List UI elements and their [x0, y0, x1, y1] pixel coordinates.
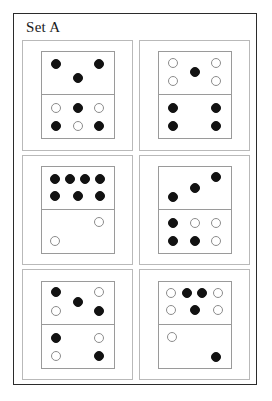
domino-6-bottom-half [159, 325, 231, 368]
open-pip-icon [211, 76, 221, 86]
open-pip-icon [94, 333, 104, 343]
filled-pip-icon [80, 174, 90, 184]
domino-worksheet-page: Set A [0, 0, 272, 401]
domino-card[interactable] [22, 155, 133, 266]
domino-1-bottom-half [42, 95, 114, 138]
open-pip-icon [211, 236, 221, 246]
filled-pip-icon [73, 103, 83, 113]
open-pip-icon [94, 103, 104, 113]
domino-card[interactable] [139, 40, 250, 151]
domino-2-bottom-half [159, 95, 231, 138]
open-pip-icon [51, 351, 61, 361]
filled-pip-icon [51, 59, 61, 69]
filled-pip-icon [211, 103, 221, 113]
open-pip-icon [167, 332, 177, 342]
open-pip-icon [166, 288, 176, 298]
open-pip-icon [94, 217, 104, 227]
filled-pip-icon [94, 351, 104, 361]
domino-4-top-half [159, 167, 231, 210]
filled-pip-icon [168, 218, 178, 228]
open-pip-icon [211, 58, 221, 68]
filled-pip-icon [50, 191, 60, 201]
open-pip-icon [50, 236, 60, 246]
filled-pip-icon [190, 67, 200, 77]
filled-pip-icon [190, 236, 200, 246]
domino-4-bottom-half [159, 210, 231, 253]
open-pip-icon [190, 218, 200, 228]
open-pip-icon [168, 76, 178, 86]
filled-pip-icon [197, 288, 207, 298]
open-pip-icon [94, 287, 104, 297]
domino-card[interactable] [22, 269, 133, 380]
filled-pip-icon [168, 192, 178, 202]
domino-grid [22, 40, 250, 380]
filled-pip-icon [73, 191, 83, 201]
domino-3-top-half [42, 167, 114, 210]
filled-pip-icon [95, 191, 105, 201]
filled-pip-icon [211, 352, 221, 362]
domino-4[interactable] [158, 166, 232, 254]
filled-pip-icon [51, 287, 61, 297]
set-title: Set A [26, 18, 60, 36]
open-pip-icon [211, 218, 221, 228]
domino-card[interactable] [22, 40, 133, 151]
filled-pip-icon [211, 121, 221, 131]
open-pip-icon [213, 288, 223, 298]
open-pip-icon [213, 305, 223, 315]
set-frame: Set A [13, 13, 257, 385]
domino-3[interactable] [41, 166, 115, 254]
filled-pip-icon [168, 121, 178, 131]
filled-pip-icon [94, 306, 104, 316]
domino-card[interactable] [139, 269, 250, 380]
filled-pip-icon [190, 305, 200, 315]
domino-6[interactable] [158, 281, 232, 369]
filled-pip-icon [182, 288, 192, 298]
open-pip-icon [51, 103, 61, 113]
domino-2[interactable] [158, 51, 232, 139]
filled-pip-icon [73, 73, 83, 83]
domino-card[interactable] [139, 155, 250, 266]
filled-pip-icon [168, 103, 178, 113]
domino-3-bottom-half [42, 210, 114, 253]
open-pip-icon [73, 121, 83, 131]
domino-2-top-half [159, 52, 231, 95]
domino-1-top-half [42, 52, 114, 95]
filled-pip-icon [190, 183, 200, 193]
filled-pip-icon [211, 172, 221, 182]
filled-pip-icon [168, 236, 178, 246]
filled-pip-icon [94, 121, 104, 131]
filled-pip-icon [65, 174, 75, 184]
domino-1[interactable] [41, 51, 115, 139]
filled-pip-icon [94, 59, 104, 69]
filled-pip-icon [51, 333, 61, 343]
domino-5-bottom-half [42, 325, 114, 368]
open-pip-icon [166, 305, 176, 315]
open-pip-icon [168, 58, 178, 68]
filled-pip-icon [50, 174, 60, 184]
domino-6-top-half [159, 282, 231, 325]
filled-pip-icon [73, 297, 83, 307]
open-pip-icon [51, 306, 61, 316]
filled-pip-icon [51, 121, 61, 131]
filled-pip-icon [95, 174, 105, 184]
domino-5[interactable] [41, 281, 115, 369]
domino-5-top-half [42, 282, 114, 325]
